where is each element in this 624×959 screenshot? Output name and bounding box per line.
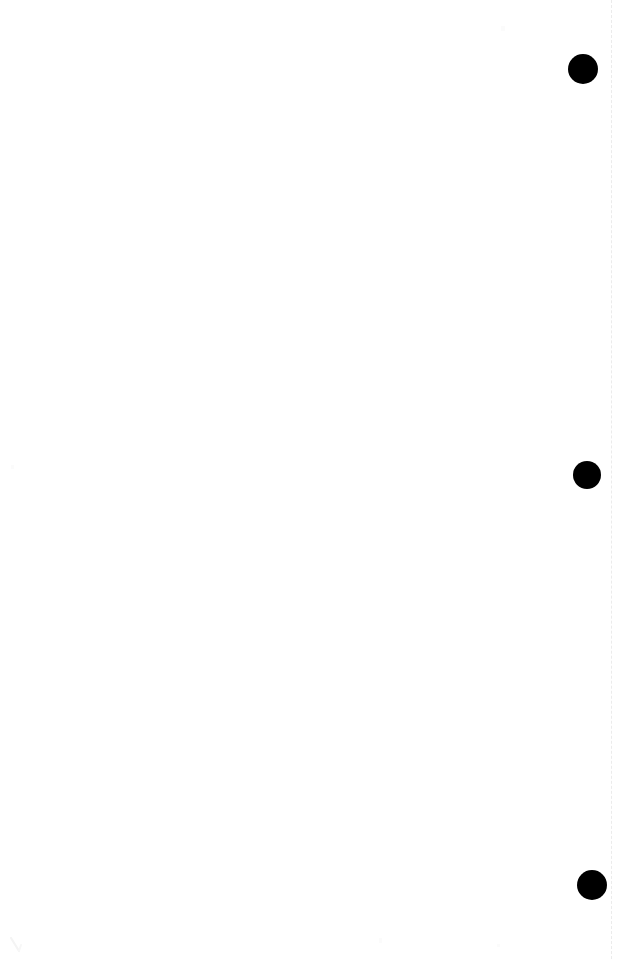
bottom-left-tick xyxy=(10,936,24,954)
speckle-bottom-center xyxy=(379,938,382,943)
scanned-page xyxy=(0,0,624,959)
page-surface xyxy=(0,0,624,959)
speckle-top-center xyxy=(501,26,505,31)
mark-bottom[interactable] xyxy=(577,870,607,900)
speckle-bottom-right xyxy=(497,944,500,947)
speckle-left-middle xyxy=(11,465,14,469)
right-margin-rule xyxy=(611,0,612,959)
mark-middle[interactable] xyxy=(573,461,601,489)
mark-top[interactable] xyxy=(568,54,598,84)
